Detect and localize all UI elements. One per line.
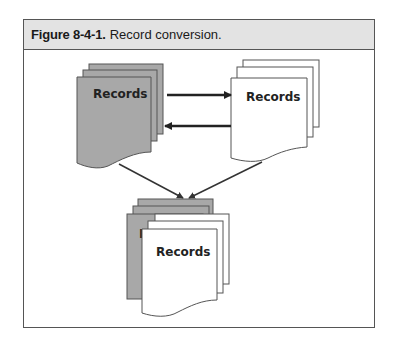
arrow-down-right-icon (119, 164, 183, 198)
merged-records-label: Records (156, 245, 210, 259)
arrow-down-left-icon (189, 162, 262, 198)
source-records-label: Records (93, 87, 147, 101)
merged-records-stack: R Records (127, 199, 229, 316)
target-records-label: Records (246, 90, 300, 104)
document-page-icon (142, 229, 217, 316)
record-conversion-diagram: Records Records R Records (0, 0, 398, 343)
target-records-stack: Records (231, 60, 319, 161)
source-records-stack: Records (77, 64, 163, 168)
